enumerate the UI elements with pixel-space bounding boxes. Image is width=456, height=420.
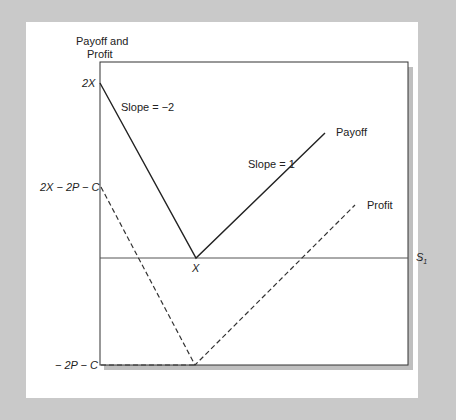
- y-axis-title-line2: Profit: [87, 48, 113, 60]
- slope-right-annotation: Slope = 1: [248, 158, 295, 170]
- x-axis-label: S1: [416, 251, 427, 265]
- y-axis-title-line1: Payoff and: [76, 35, 128, 47]
- x-axis-subscript: 1: [423, 258, 427, 265]
- y-label-neg-2p-c: − 2P − C: [55, 359, 98, 371]
- profit-label: Profit: [367, 199, 393, 211]
- y-label-2x: 2X: [82, 77, 95, 89]
- y-label-2x-2p-c: 2X − 2P − C: [40, 181, 100, 193]
- x-label-strike: X: [192, 262, 199, 274]
- payoff-label: Payoff: [336, 126, 367, 138]
- slope-left-annotation: Slope = −2: [121, 101, 174, 113]
